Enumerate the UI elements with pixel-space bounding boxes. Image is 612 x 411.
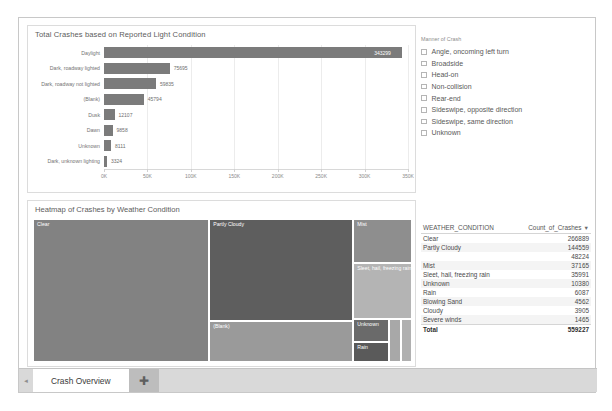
cell-weather-condition	[421, 252, 512, 261]
slicer-item-label: Sideswipe, same direction	[432, 118, 513, 125]
weather-condition-table[interactable]: WEATHER_CONDITION Count_of_Crashes▼ Clea…	[421, 223, 591, 334]
slicer-item[interactable]: Head-on	[421, 69, 589, 81]
treemap-tile[interactable]	[389, 319, 401, 362]
checkbox-icon[interactable]	[421, 107, 427, 113]
cell-weather-condition: Partly Cloudy	[421, 243, 512, 252]
table-row[interactable]: Rain6087	[421, 288, 591, 297]
checkbox-icon[interactable]	[421, 61, 427, 67]
column-header-count[interactable]: Count_of_Crashes▼	[512, 223, 591, 234]
scroll-left-icon[interactable]: ◄	[19, 369, 33, 392]
slicer-item[interactable]: Broadside	[421, 58, 589, 70]
slicer-item-label: Unknown	[432, 129, 461, 136]
checkbox-icon[interactable]	[421, 95, 427, 101]
tab-crash-overview[interactable]: Crash Overview	[33, 369, 129, 392]
slicer-item-label: Rear-end	[432, 95, 461, 102]
slicer-item[interactable]: Sideswipe, same direction	[421, 116, 589, 128]
treemap-tile[interactable]: Unknown	[353, 319, 389, 342]
bar-row[interactable]: (Blank)45794	[104, 94, 408, 105]
table-row[interactable]: Clear266889	[421, 234, 591, 244]
table-row[interactable]: Sleet, hail, freezing rain35991	[421, 270, 591, 279]
bar[interactable]	[104, 47, 402, 58]
bar[interactable]	[104, 125, 113, 136]
slicer-title: Manner of Crash	[421, 36, 589, 42]
slicer-item[interactable]: Non-collision	[421, 81, 589, 93]
cell-weather-condition: Severe winds	[421, 315, 512, 325]
treemap-tile[interactable]: Mist	[353, 219, 412, 263]
bar-row[interactable]: Dark, unknown lighting3324	[104, 156, 408, 167]
slicer-item-label: Sideswipe, opposite direction	[432, 106, 523, 113]
treemap-tile-label: (Blank)	[213, 323, 229, 329]
treemap-tile[interactable]: Clear	[33, 219, 209, 362]
bar-value-label: 59835	[160, 81, 174, 87]
bar-chart-title: Total Crashes based on Reported Light Co…	[35, 30, 206, 39]
axis-tick-label: 0K	[101, 173, 107, 179]
bar-row[interactable]: Dark, roadway lighted75695	[104, 63, 408, 74]
bar-row[interactable]: Daylight343299	[104, 47, 408, 58]
bar-row[interactable]: Dusk12107	[104, 109, 408, 120]
add-tab-icon[interactable]: ✚	[129, 369, 159, 392]
bar-value-label: 75695	[174, 65, 188, 71]
cell-count: 4562	[512, 297, 591, 306]
bar-row[interactable]: Dark, roadway not lighted59835	[104, 78, 408, 89]
treemap-tile[interactable]: Sleet, hail, freezing rain	[353, 263, 412, 319]
treemap-tile[interactable]: Partly Cloudy	[209, 219, 353, 321]
page-tab-bar: ◄ Crash Overview ✚	[19, 368, 597, 392]
table-row[interactable]: Severe winds1465	[421, 315, 591, 325]
axis-tick	[234, 169, 235, 172]
treemap-tile[interactable]: Rain	[353, 342, 389, 362]
cell-count: 1465	[512, 315, 591, 325]
bar[interactable]	[104, 109, 115, 120]
axis-tick	[104, 169, 105, 172]
sort-descending-icon[interactable]: ▼	[584, 225, 589, 231]
total-label: Total	[421, 325, 512, 335]
bar[interactable]	[104, 140, 111, 151]
bar-value-label: 12107	[119, 112, 133, 118]
table-body: Clear266889Partly Cloudy14455948224Mist3…	[421, 234, 591, 325]
bar-chart-card[interactable]: Total Crashes based on Reported Light Co…	[27, 25, 416, 193]
checkbox-icon[interactable]	[421, 84, 427, 90]
table-row[interactable]: Partly Cloudy144559	[421, 243, 591, 252]
cell-count: 37165	[512, 261, 591, 270]
checkbox-icon[interactable]	[421, 130, 427, 136]
checkbox-icon[interactable]	[421, 72, 427, 78]
table-row[interactable]: Mist37165	[421, 261, 591, 270]
bar-row[interactable]: Dawn9858	[104, 125, 408, 136]
slicer-item[interactable]: Angle, oncoming left turn	[421, 46, 589, 58]
treemap-tile-label: Partly Cloudy	[213, 221, 244, 227]
bar-value-label: 9858	[117, 127, 128, 133]
bar-category-label: Unknown	[78, 143, 100, 149]
checkbox-icon[interactable]	[421, 49, 427, 55]
slicer-item-label: Broadside	[432, 60, 464, 67]
table-row[interactable]: 48224	[421, 252, 591, 261]
bar-chart-axis-line	[104, 169, 408, 170]
axis-tick	[321, 169, 322, 172]
bar-category-label: Dark, roadway not lighted	[41, 81, 100, 87]
slicer-item[interactable]: Unknown	[421, 127, 589, 139]
slicer-item[interactable]: Sideswipe, opposite direction	[421, 104, 589, 116]
slicer-item[interactable]: Rear-end	[421, 92, 589, 104]
slicer-item-label: Angle, oncoming left turn	[432, 48, 509, 55]
bar-category-label: Dusk	[88, 112, 100, 118]
bar[interactable]	[104, 94, 144, 105]
axis-tick	[408, 169, 409, 172]
grid-line	[408, 45, 409, 169]
checkbox-icon[interactable]	[421, 119, 427, 125]
bar[interactable]	[104, 156, 107, 167]
bar-row[interactable]: Unknown8111	[104, 140, 408, 151]
treemap-tile[interactable]: (Blank)	[209, 321, 353, 362]
treemap-tile[interactable]	[401, 319, 412, 362]
treemap-tile-label: Mist	[357, 221, 367, 227]
table-row[interactable]: Unknown10380	[421, 279, 591, 288]
bar[interactable]	[104, 78, 156, 89]
table-row[interactable]: Cloudy3905	[421, 306, 591, 315]
bar-category-label: Dark, unknown lighting	[48, 158, 100, 164]
heatmap-title: Heatmap of Crashes by Weather Condition	[35, 205, 180, 214]
cell-count: 6087	[512, 288, 591, 297]
manner-of-crash-slicer[interactable]: Manner of Crash Angle, oncoming left tur…	[421, 36, 589, 139]
column-header-weather-condition[interactable]: WEATHER_CONDITION	[421, 223, 512, 234]
cell-count: 3905	[512, 306, 591, 315]
slicer-item-label: Head-on	[432, 71, 459, 78]
bar[interactable]	[104, 63, 170, 74]
table-row[interactable]: Blowing Sand4562	[421, 297, 591, 306]
heatmap-card[interactable]: Heatmap of Crashes by Weather Condition …	[27, 200, 416, 367]
